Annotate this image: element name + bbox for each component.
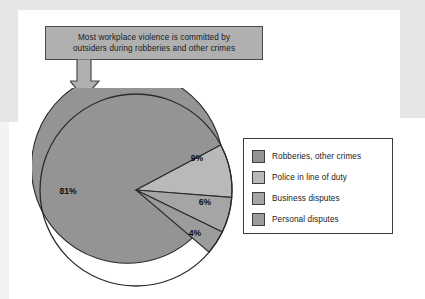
legend-swatch-business — [252, 192, 265, 205]
legend-swatch-personal — [252, 213, 265, 226]
legend: Robberies, other crimes Police in line o… — [243, 138, 393, 234]
page-edge-band-left — [0, 0, 18, 122]
callout-box: Most workplace violence is committed by … — [45, 26, 263, 60]
legend-item-robberies: Robberies, other crimes — [252, 146, 392, 167]
pie-label-robberies: 81% — [59, 186, 77, 196]
page-edge-band-right — [400, 0, 425, 118]
callout-text: Most workplace violence is committed by … — [73, 32, 235, 55]
pie-label-business: 6% — [199, 197, 212, 207]
page-edge-band-left-lower — [0, 122, 9, 299]
legend-item-personal: Personal disputes — [252, 209, 392, 230]
pie-label-personal: 4% — [189, 228, 202, 238]
figure-page: Most workplace violence is committed by … — [0, 0, 425, 299]
legend-swatch-robberies — [252, 150, 265, 163]
legend-item-business: Business disputes — [252, 188, 392, 209]
legend-label-personal: Personal disputes — [272, 215, 339, 224]
legend-label-business: Business disputes — [272, 194, 340, 203]
legend-swatch-police — [252, 171, 265, 184]
legend-label-police: Police in line of duty — [272, 173, 347, 182]
pie-label-police: 9% — [191, 153, 204, 163]
pie-chart: 81% 9% 6% 4% — [32, 88, 240, 288]
page-edge-band-top — [0, 0, 425, 10]
legend-item-police: Police in line of duty — [252, 167, 392, 188]
legend-label-robberies: Robberies, other crimes — [272, 152, 361, 161]
